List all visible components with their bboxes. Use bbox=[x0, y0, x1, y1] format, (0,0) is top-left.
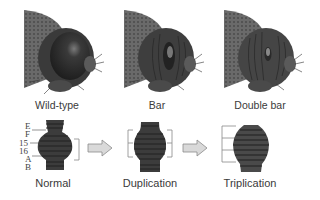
caption-normal: Normal bbox=[28, 177, 78, 189]
arrow-right-icon bbox=[182, 140, 208, 156]
chromosome-duplication bbox=[125, 120, 175, 175]
fly-head-double-bar-illustration bbox=[220, 8, 300, 93]
caption-double-bar: Double bar bbox=[222, 99, 298, 111]
chromosome-normal bbox=[20, 118, 85, 173]
arrow-right-icon bbox=[87, 140, 113, 156]
chromosome-triplication bbox=[220, 124, 275, 176]
caption-triplication: Triplication bbox=[220, 177, 280, 189]
caption-bar: Bar bbox=[127, 99, 187, 111]
caption-duplication: Duplication bbox=[122, 177, 178, 189]
caption-wild-type: Wild-type bbox=[27, 99, 87, 111]
fly-head-bar-illustration bbox=[120, 8, 200, 93]
fly-head-wild-type-illustration bbox=[20, 8, 100, 93]
